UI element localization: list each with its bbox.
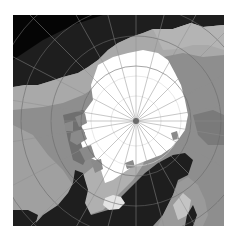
map-canvas [13,15,224,226]
north-pole-marker [133,118,139,124]
page [0,0,239,240]
arctic-map [13,15,224,226]
